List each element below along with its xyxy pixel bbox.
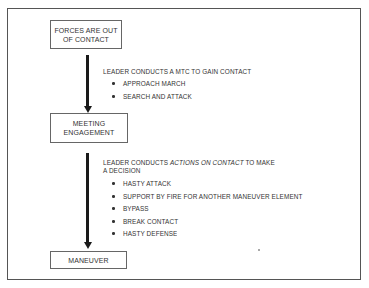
transition-1-heading: LEADER CONDUCTS A MTC TO GAIN CONTACT [103,68,251,76]
transition-2-heading-line2: A DECISION [103,167,141,175]
bullet-icon [112,82,115,85]
bullet-icon [112,182,115,185]
transition-2-item: HASTY ATTACK [123,180,171,188]
node-maneuver: MANEUVER [50,251,127,269]
bullet-icon [112,95,115,98]
arrow-1-head-icon [84,106,92,113]
bullet-icon [112,232,115,235]
scan-speck [258,249,260,251]
bullet-icon [112,207,115,210]
transition-1-item: APPROACH MARCH [123,80,185,88]
node-label-line2: OF CONTACT [54,35,117,44]
heading-prefix: LEADER CONDUCTS [103,159,170,166]
bullet-icon [112,220,115,223]
transition-2-item: HASTY DEFENSE [123,230,177,236]
node-label-line2: ENGAGEMENT [64,128,115,137]
node-meeting-engagement: MEETING ENGAGEMENT [50,113,128,143]
transition-2-item: SUPPORT BY FIRE FOR ANOTHER MANEUVER ELE… [123,193,302,201]
node-label-line1: FORCES ARE OUT [54,26,117,35]
transition-1-item: SEARCH AND ATTACK [123,93,192,101]
arrow-1-shaft [86,55,89,107]
transition-2-item: BYPASS [123,205,149,213]
arrow-2-head-icon [84,242,92,249]
transition-2-heading: LEADER CONDUCTS ACTIONS ON CONTACT TO MA… [103,159,275,167]
arrow-2-shaft [86,153,89,243]
node-forces-out-of-contact: FORCES ARE OUT OF CONTACT [50,20,122,49]
heading-suffix: TO MAKE [244,159,275,166]
transition-2-item: BREAK CONTACT [123,218,178,226]
node-label-line1: MANEUVER [68,256,108,265]
bullet-icon [112,195,115,198]
node-label-line1: MEETING [64,119,115,128]
heading-italic: ACTIONS ON CONTACT [170,159,244,166]
